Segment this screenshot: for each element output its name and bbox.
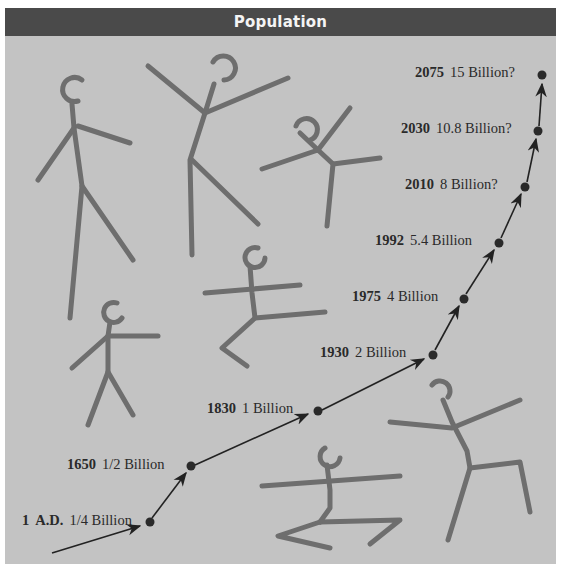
stick-figure-dancing-icon — [262, 108, 380, 226]
stick-figure-arms-up-icon — [148, 56, 288, 255]
label-1930: 19302 Billion — [320, 344, 406, 361]
point-1930 — [429, 351, 438, 360]
figure-canvas: 1A.D.1/4 Billion 16501/2 Billion 18301 B… — [5, 36, 556, 564]
point-1992 — [495, 239, 504, 248]
label-1ad: 1A.D.1/4 Billion — [22, 512, 132, 529]
point-2030 — [534, 127, 543, 136]
point-1650 — [187, 462, 196, 471]
label-1975: 19754 Billion — [352, 288, 438, 305]
stick-figure-leaping-icon — [390, 381, 530, 540]
label-1650: 16501/2 Billion — [67, 456, 164, 473]
stick-figure-walking-icon — [38, 77, 133, 318]
label-1992: 19925.4 Billion — [375, 232, 472, 249]
population-figure: Population — [5, 8, 556, 564]
title-bar: Population — [5, 8, 556, 36]
point-1975 — [460, 295, 469, 304]
point-2010 — [521, 183, 530, 192]
label-2010: 20108 Billion? — [405, 176, 498, 193]
timeline-points — [146, 71, 547, 527]
point-1ad — [146, 518, 155, 527]
stick-figure-crouching-icon — [262, 448, 400, 548]
figure-title: Population — [234, 13, 327, 31]
label-2030: 203010.8 Billion? — [401, 120, 512, 137]
illustration-svg — [5, 36, 556, 564]
stick-figure-running-icon — [205, 248, 325, 366]
label-1830: 18301 Billion — [207, 400, 293, 417]
stick-figure-standing-icon — [72, 302, 158, 425]
label-2075: 207515 Billion? — [415, 64, 515, 81]
point-2075 — [538, 71, 547, 80]
point-1830 — [314, 407, 323, 416]
